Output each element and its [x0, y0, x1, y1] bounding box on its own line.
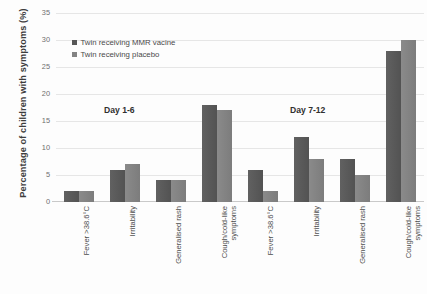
- annotation-day-7-12: Day 7-12: [290, 105, 325, 115]
- legend-label: Twin receiving placebo: [81, 50, 160, 59]
- bar: [340, 159, 355, 202]
- bar-shading: [64, 191, 79, 202]
- y-axis-tick-label: 10: [24, 144, 50, 151]
- x-axis-category-label: Generalised rash: [359, 206, 368, 288]
- x-axis-category-label: Fever >38.6°C: [267, 206, 276, 288]
- x-axis-category-label: Generalised rash: [175, 206, 184, 288]
- y-axis-tick-label: 30: [24, 36, 50, 43]
- bar-shading: [110, 170, 125, 202]
- bar-group: [340, 13, 370, 202]
- bar-shading: [171, 180, 186, 202]
- bar-shading: [309, 159, 324, 202]
- bar: [110, 170, 125, 202]
- bar: [309, 159, 324, 202]
- x-axis-category-label: Irritability: [129, 206, 138, 288]
- y-axis-tick-label: 20: [24, 90, 50, 97]
- x-axis-category-label: Cough/cold-like symptoms: [405, 206, 422, 288]
- bar-shading: [401, 40, 416, 202]
- bar: [79, 191, 94, 202]
- y-axis-tick-label: 25: [24, 63, 50, 70]
- bar-chart: Percentage of children with symptoms (%)…: [0, 0, 427, 294]
- bar: [386, 51, 401, 202]
- bar: [248, 170, 263, 202]
- y-axis-tick-label: 35: [24, 9, 50, 16]
- bar: [294, 137, 309, 202]
- bar-group: [386, 13, 416, 202]
- y-axis-tick-label: 0: [24, 198, 50, 205]
- bar: [156, 180, 171, 202]
- x-axis-category-label: Fever >38.6°C: [83, 206, 92, 288]
- bar-shading: [79, 191, 94, 202]
- bar-shading: [156, 180, 171, 202]
- legend-swatch: [72, 40, 77, 45]
- bar: [355, 175, 370, 202]
- bar-shading: [294, 137, 309, 202]
- x-axis-category-label: Irritability: [313, 206, 322, 288]
- bar-shading: [202, 105, 217, 202]
- bar: [64, 191, 79, 202]
- legend-swatch: [72, 52, 77, 57]
- bar: [217, 110, 232, 202]
- bar-group: [202, 13, 232, 202]
- bar-shading: [263, 191, 278, 202]
- y-axis-title: Percentage of children with symptoms (%): [18, 0, 28, 218]
- legend-item: Twin receiving MMR vacine: [72, 36, 175, 48]
- x-axis-category-labels: Fever >38.6°CIrritabilityGeneralised ras…: [56, 206, 424, 294]
- y-axis-tick-label: 5: [24, 171, 50, 178]
- x-axis-category-label: Cough/cold-like symptoms: [221, 206, 238, 288]
- bar-shading: [125, 164, 140, 202]
- legend-item: Twin receiving placebo: [72, 48, 175, 60]
- bar-shading: [248, 170, 263, 202]
- bar: [125, 164, 140, 202]
- legend: Twin receiving MMR vacineTwin receiving …: [72, 36, 175, 60]
- bar-shading: [217, 110, 232, 202]
- legend-label: Twin receiving MMR vacine: [81, 38, 176, 47]
- bar: [401, 40, 416, 202]
- bar-group: [248, 13, 278, 202]
- bar: [202, 105, 217, 202]
- bar-shading: [340, 159, 355, 202]
- bar: [171, 180, 186, 202]
- bar-shading: [386, 51, 401, 202]
- y-axis-tick-label: 15: [24, 117, 50, 124]
- bar: [263, 191, 278, 202]
- annotation-day-1-6: Day 1-6: [104, 105, 135, 115]
- bar-shading: [355, 175, 370, 202]
